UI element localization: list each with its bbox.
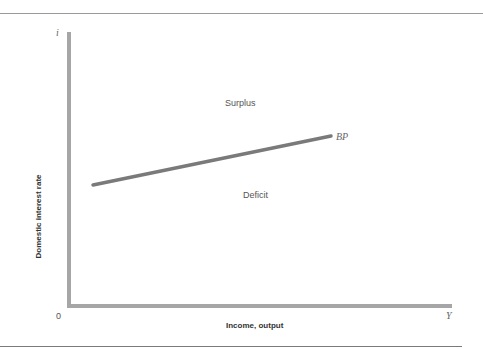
bp-curve-label: BP	[336, 131, 348, 142]
deficit-region-label: Deficit	[243, 190, 268, 200]
origin-label: 0	[56, 311, 61, 321]
x-axis-title: Income, output	[226, 321, 283, 330]
x-axis-symbol: Y	[446, 310, 452, 321]
surplus-region-label: Surplus	[225, 98, 256, 108]
bp-curve	[93, 136, 331, 185]
y-axis-title: Domestic interest rate	[34, 157, 43, 277]
diagram-canvas	[0, 0, 483, 349]
bottom-rule	[0, 346, 462, 347]
y-axis-symbol: i	[56, 27, 59, 38]
